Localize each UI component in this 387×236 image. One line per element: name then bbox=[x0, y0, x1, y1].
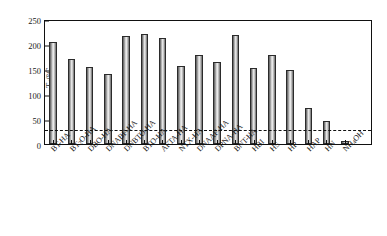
bar-slot bbox=[45, 21, 63, 144]
bar bbox=[305, 108, 313, 144]
bar-chart: Td/°C 050100150200250 BT-HABT2O-HADBO-HA… bbox=[0, 0, 387, 236]
y-tick-label: 50 bbox=[1, 116, 45, 126]
y-tick-label: 0 bbox=[1, 141, 45, 151]
bar bbox=[68, 59, 76, 145]
y-tick-label: 100 bbox=[1, 91, 45, 101]
bar-slot bbox=[319, 21, 337, 144]
y-tick-label: 150 bbox=[1, 66, 45, 76]
bar-slot bbox=[337, 21, 355, 144]
bar-slot bbox=[155, 21, 173, 144]
bar bbox=[286, 70, 294, 144]
bar-slot bbox=[246, 21, 264, 144]
bar-slot bbox=[191, 21, 209, 144]
x-axis-labels: BT-HABT2O-HADBO-HADNABF-HADNBTO-HABTO-HA… bbox=[44, 147, 372, 233]
bar-slot bbox=[264, 21, 282, 144]
y-tick-label: 200 bbox=[1, 41, 45, 51]
bar bbox=[268, 55, 276, 144]
y-tick-label: 250 bbox=[1, 16, 45, 26]
bar-slot bbox=[64, 21, 82, 144]
bar-slot bbox=[301, 21, 319, 144]
bar-slot bbox=[282, 21, 300, 144]
